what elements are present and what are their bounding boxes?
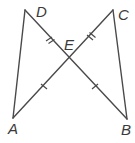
segment-AC	[13, 10, 113, 118]
segment-BD	[25, 10, 127, 119]
label-E: E	[64, 36, 75, 53]
geometry-diagram: D C E A B	[0, 0, 135, 143]
label-B: B	[121, 121, 131, 138]
label-A: A	[7, 120, 18, 137]
label-C: C	[118, 6, 129, 23]
tick-marks-DE	[46, 37, 55, 44]
tick-marks-CE	[87, 33, 96, 41]
segment-AD	[13, 10, 25, 118]
segment-BC	[113, 10, 127, 119]
label-D: D	[36, 3, 47, 20]
